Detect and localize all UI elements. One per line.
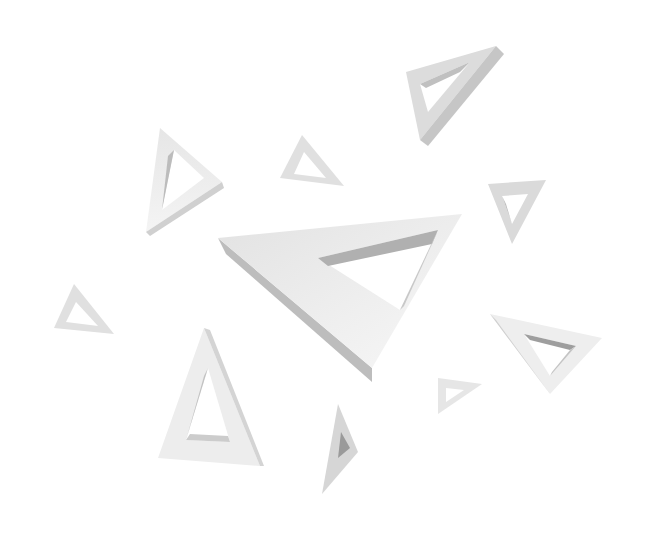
right-small-triangle: [488, 180, 546, 244]
left-small-triangle: [54, 284, 114, 334]
large-center-triangle: [218, 214, 462, 382]
top-right-triangle: [406, 46, 504, 146]
right-large-triangle: [490, 314, 602, 394]
floating-triangles-scene: [0, 0, 646, 535]
bottom-right-small-triangle: [438, 378, 482, 414]
small-upper-triangle: [280, 135, 344, 186]
bottom-left-tall-triangle: [158, 328, 264, 466]
bottom-small-triangle: [322, 404, 358, 494]
left-upper-triangle: [146, 128, 224, 236]
triangles-artwork: [0, 0, 646, 535]
